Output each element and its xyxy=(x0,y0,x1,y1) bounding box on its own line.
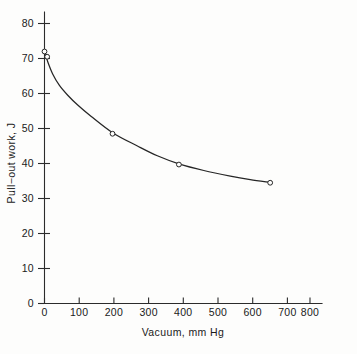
x-tick-label-400: 400 xyxy=(174,306,192,318)
y-tick-label-70: 70 xyxy=(22,52,34,64)
y-axis-tick-labels: 0 10 20 30 40 50 60 70 80 xyxy=(22,17,34,309)
x-tick-label-600: 600 xyxy=(243,306,261,318)
y-tick-label-60: 60 xyxy=(22,87,34,99)
x-axis-title: Vacuum, mm Hg xyxy=(142,326,225,338)
x-tick-label-700: 700 xyxy=(278,306,296,318)
chart-figure: 0 10 20 30 40 50 60 70 80 Pull−out work,… xyxy=(0,0,357,354)
x-tick-label-0: 0 xyxy=(41,306,47,318)
x-tick-label-300: 300 xyxy=(139,306,157,318)
y-axis-title: Pull−out work, J xyxy=(5,123,17,204)
data-point xyxy=(177,162,182,167)
data-point xyxy=(268,180,273,185)
y-tick-label-20: 20 xyxy=(22,227,34,239)
y-tick-label-50: 50 xyxy=(22,122,34,134)
y-tick-label-30: 30 xyxy=(22,192,34,204)
x-tick-label-200: 200 xyxy=(105,306,123,318)
y-tick-label-10: 10 xyxy=(22,262,34,274)
y-tick-label-80: 80 xyxy=(22,17,34,29)
data-point xyxy=(110,131,115,136)
data-point xyxy=(42,49,47,54)
x-tick-label-100: 100 xyxy=(70,306,88,318)
data-point xyxy=(45,54,50,59)
y-tick-label-0: 0 xyxy=(28,297,34,309)
x-tick-label-500: 500 xyxy=(209,306,227,318)
x-axis-tick-labels: 0 100 200 300 400 500 600 700 800 xyxy=(41,306,319,318)
pull-out-work-vs-vacuum-chart: 0 10 20 30 40 50 60 70 80 Pull−out work,… xyxy=(0,0,357,354)
chart-background xyxy=(0,0,357,354)
x-tick-label-800: 800 xyxy=(301,306,319,318)
y-tick-label-40: 40 xyxy=(22,157,34,169)
